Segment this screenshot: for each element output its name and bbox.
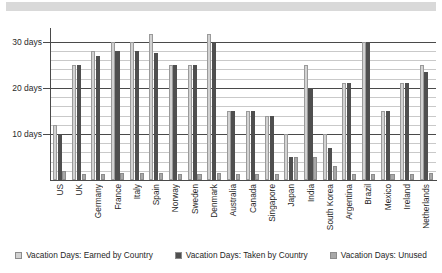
bar-earned[interactable] — [265, 116, 269, 180]
bar-earned[interactable] — [400, 83, 404, 180]
bar-taken[interactable] — [424, 72, 428, 180]
x-axis-category-label: Germany — [93, 184, 103, 218]
bar-taken[interactable] — [366, 42, 370, 180]
bar-unused[interactable] — [333, 166, 337, 180]
bar-group — [149, 34, 163, 180]
gridline — [50, 51, 436, 52]
vacation-days-bar-chart: 30 days20 days10 days USUKGermanyFranceI… — [0, 14, 442, 246]
bar-taken[interactable] — [386, 111, 390, 180]
bar-earned[interactable] — [420, 65, 424, 180]
gridline — [50, 162, 436, 163]
bar-taken[interactable] — [347, 83, 351, 180]
gridline — [50, 152, 436, 153]
bar-taken[interactable] — [328, 148, 332, 180]
bar-taken[interactable] — [251, 111, 255, 180]
bar-taken[interactable] — [289, 157, 293, 180]
bar-taken[interactable] — [77, 65, 81, 180]
bar-earned[interactable] — [130, 42, 134, 180]
gridline — [50, 116, 436, 117]
bar-group — [420, 34, 434, 180]
bar-taken[interactable] — [231, 111, 235, 180]
y-axis-tick-label: 10 days — [2, 129, 42, 139]
y-axis-line — [50, 28, 51, 180]
gridline — [50, 143, 436, 144]
x-axis-category-label: UK — [74, 184, 84, 196]
bar-unused[interactable] — [140, 173, 144, 180]
bar-unused[interactable] — [159, 173, 163, 180]
bar-taken[interactable] — [96, 56, 100, 180]
bar-taken[interactable] — [212, 42, 216, 180]
bar-earned[interactable] — [207, 34, 211, 180]
bar-unused[interactable] — [313, 157, 317, 180]
y-axis-tick-label: 20 days — [2, 83, 42, 93]
bar-group — [381, 34, 395, 180]
bar-group — [130, 34, 144, 180]
plot-area — [50, 34, 436, 180]
bar-earned[interactable] — [342, 83, 346, 180]
bar-earned[interactable] — [284, 134, 288, 180]
bar-taken[interactable] — [173, 65, 177, 180]
gridline — [50, 171, 436, 172]
bar-taken[interactable] — [135, 51, 139, 180]
gridline — [50, 97, 436, 98]
bar-unused[interactable] — [294, 157, 298, 180]
bar-earned[interactable] — [111, 42, 115, 180]
bar-unused[interactable] — [217, 173, 221, 180]
bar-group — [169, 34, 183, 180]
gridline — [50, 88, 436, 89]
bar-earned[interactable] — [323, 134, 327, 180]
legend-item[interactable]: Vacation Days: Unused — [330, 250, 427, 260]
gridline — [50, 134, 436, 135]
bar-taken[interactable] — [154, 53, 158, 180]
legend-label: Vacation Days: Taken by Country — [186, 250, 308, 260]
bar-group — [246, 34, 260, 180]
legend-swatch-unused-icon — [330, 252, 337, 259]
bar-earned[interactable] — [91, 51, 95, 180]
bar-earned[interactable] — [149, 34, 153, 180]
legend-item[interactable]: Vacation Days: Taken by Country — [175, 250, 308, 260]
bar-taken[interactable] — [308, 88, 312, 180]
bar-group — [111, 34, 125, 180]
x-axis-category-label: Japan — [286, 184, 296, 207]
bar-earned[interactable] — [381, 111, 385, 180]
bar-group — [323, 34, 337, 180]
x-axis-category-label: Norway — [170, 184, 180, 212]
bar-group — [188, 34, 202, 180]
bar-group — [284, 34, 298, 180]
bar-unused[interactable] — [120, 173, 124, 180]
x-axis-category-label: Australia — [228, 184, 238, 216]
gridline — [50, 125, 436, 126]
bar-group — [227, 34, 241, 180]
bar-group — [342, 34, 356, 180]
bar-group — [53, 34, 67, 180]
bar-earned[interactable] — [72, 65, 76, 180]
legend-swatch-taken-icon — [175, 252, 182, 259]
chart-legend: Vacation Days: Earned by CountryVacation… — [0, 250, 442, 270]
bar-taken[interactable] — [115, 51, 119, 180]
bar-taken[interactable] — [270, 116, 274, 180]
x-axis-category-label: Ireland — [402, 184, 412, 209]
bar-group — [400, 34, 414, 180]
bar-group — [265, 34, 279, 180]
bar-earned[interactable] — [362, 42, 366, 180]
legend-item[interactable]: Vacation Days: Earned by Country — [15, 250, 153, 260]
bar-taken[interactable] — [193, 65, 197, 180]
bar-earned[interactable] — [188, 65, 192, 180]
x-axis-category-label: South Korea — [325, 184, 335, 230]
bar-earned[interactable] — [169, 65, 173, 180]
bar-earned[interactable] — [227, 111, 231, 180]
bar-earned[interactable] — [246, 111, 250, 180]
x-axis-category-label: France — [113, 184, 123, 210]
bar-taken[interactable] — [58, 134, 62, 180]
bar-earned[interactable] — [53, 125, 57, 180]
legend-label: Vacation Days: Unused — [341, 250, 427, 260]
x-axis-category-label: Canada — [248, 184, 258, 213]
x-axis-category-label: Mexico — [383, 184, 393, 210]
bar-unused[interactable] — [62, 171, 66, 180]
bar-earned[interactable] — [304, 65, 308, 180]
x-axis-line — [50, 180, 437, 181]
x-axis-category-label: Netherlands — [421, 184, 431, 229]
bar-unused[interactable] — [429, 173, 433, 180]
bar-taken[interactable] — [405, 83, 409, 180]
x-axis-category-label: Italy — [132, 184, 142, 199]
